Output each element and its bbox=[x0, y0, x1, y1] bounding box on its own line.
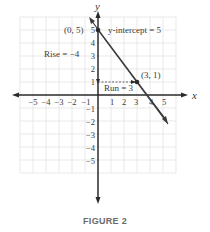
y-axis bbox=[96, 11, 101, 204]
coordinate-plane-figure: y x (0, 5) y-intercept = 5 Rise = −4 (3,… bbox=[0, 0, 210, 232]
point-label-0-5: (0, 5) bbox=[64, 25, 84, 35]
y-tick: −3 bbox=[86, 130, 95, 140]
y-tick: 2 bbox=[91, 64, 95, 74]
y-tick: 3 bbox=[91, 51, 95, 61]
x-axis-label: x bbox=[191, 89, 197, 101]
arrow-left-icon bbox=[12, 93, 19, 98]
point-0-5 bbox=[96, 28, 101, 33]
x-tick: 1 bbox=[110, 97, 114, 107]
arrow-right-icon bbox=[181, 93, 188, 98]
rise-label: Rise = −4 bbox=[44, 49, 80, 59]
y-tick: −1 bbox=[86, 104, 95, 114]
arrow-up-icon bbox=[96, 11, 101, 18]
x-tick: −4 bbox=[41, 97, 51, 107]
rise-arrow-icon bbox=[96, 79, 100, 84]
arrow-down-icon bbox=[96, 197, 101, 204]
x-tick: 3 bbox=[134, 97, 138, 107]
point-label-3-1: (3, 1) bbox=[141, 70, 161, 80]
x-tick: −2 bbox=[67, 97, 76, 107]
y-tick: −5 bbox=[86, 156, 95, 166]
x-tick: 5 bbox=[162, 97, 166, 107]
line-arrow-upper-icon bbox=[89, 17, 95, 24]
x-tick: −3 bbox=[54, 97, 63, 107]
y-tick: −2 bbox=[86, 117, 95, 127]
y-intercept-label: y-intercept = 5 bbox=[108, 25, 162, 35]
y-tick: −4 bbox=[86, 143, 96, 153]
y-tick: 1 bbox=[91, 77, 95, 87]
y-tick: 5 bbox=[91, 25, 95, 35]
figure-caption: FIGURE 2 bbox=[83, 216, 127, 226]
y-axis-label: y bbox=[94, 0, 100, 12]
point-3-1 bbox=[135, 80, 140, 85]
x-tick: −5 bbox=[28, 97, 37, 107]
run-label: Run = 3 bbox=[104, 83, 134, 93]
x-tick: 2 bbox=[122, 97, 126, 107]
